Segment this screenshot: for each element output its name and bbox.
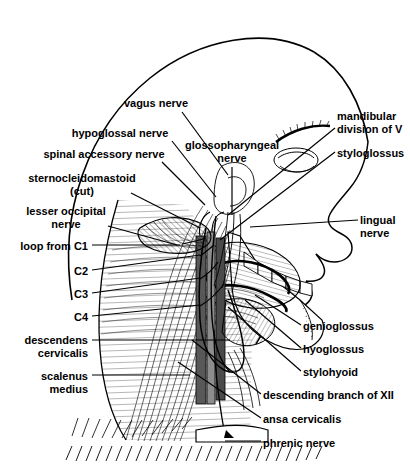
- label-lesser-occipital-nerve: lesser occipital nerve: [26, 205, 106, 230]
- label-scalenus-medius: scalenus medius: [41, 370, 88, 395]
- label-vagus-nerve: vagus nerve: [124, 97, 188, 110]
- label-hypoglossal-nerve: hypoglossal nerve: [72, 127, 169, 140]
- label-stylohyoid: stylohyoid: [303, 366, 358, 379]
- label-c3: C3: [74, 288, 88, 301]
- anatomy-figure: vagus nervehypoglossal nerveglossopharyn…: [0, 0, 410, 465]
- label-descending-branch-of-xii: descending branch of XII: [263, 389, 394, 402]
- sternocleidomastoid-cut: [138, 218, 211, 254]
- leader-line-styloglossus: [220, 152, 335, 240]
- leader-line-spinal-accessory-nerve: [162, 162, 205, 205]
- label-hyoglossus: hyoglossus: [303, 343, 364, 356]
- clavicle: [196, 426, 268, 443]
- label-c2: C2: [74, 265, 88, 278]
- label-spinal-accessory-nerve: spinal accessory nerve: [43, 148, 164, 161]
- label-phrenic-nerve: phrenic nerve: [263, 437, 335, 450]
- eye-and-eyebrow: [274, 120, 330, 172]
- label-c4: C4: [74, 311, 88, 324]
- label-genioglossus: genioglossus: [303, 320, 374, 333]
- label-glossopharyngeal-nerve: glossopharyngeal nerve: [185, 139, 279, 164]
- leader-line-lingual-nerve: [250, 220, 358, 227]
- label-ansa-cervicalis: ansa cervicalis: [263, 413, 341, 426]
- label-styloglossus: styloglossus: [337, 147, 404, 160]
- label-lingual-nerve: lingual nerve: [360, 214, 395, 239]
- label-sternocleidomastoid: sternocleidomastoid (cut): [28, 172, 136, 197]
- label-mandibular-division-of-v: mandibular division of V: [337, 110, 402, 135]
- label-loop-from-c1: loop from C1: [20, 240, 88, 253]
- ear: [214, 162, 254, 214]
- label-descendens-cervicalis: descendens cervicalis: [24, 334, 88, 359]
